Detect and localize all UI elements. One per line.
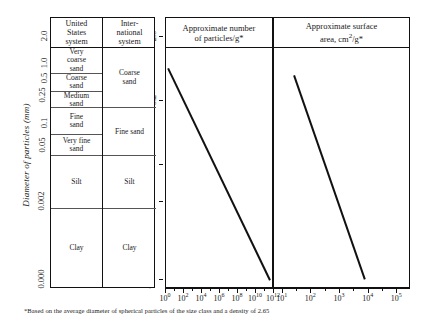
us-class-medium-sand: Mediumsand	[51, 92, 102, 108]
x-tick-minor	[210, 288, 211, 291]
cell-text: Very finesand	[63, 137, 91, 153]
x-tick-label: 100	[160, 292, 171, 303]
cell-text: Finesand	[70, 113, 84, 129]
panel-title-number-of-particles: Approximate numberof particles/g*	[166, 18, 272, 48]
x-tick-minor	[353, 288, 354, 291]
x-tick-label: 106	[214, 292, 225, 303]
us-class-clay: Clay	[51, 209, 102, 287]
intl-class-coarse-sand: Coarsesand	[103, 48, 156, 108]
footnote: *Based on the average diameter of spheri…	[24, 307, 269, 314]
x-tick-minor	[296, 288, 297, 291]
diameter-scale-outer: 2.01.00.50.250.10.050.0020.000	[20, 36, 50, 288]
plot-area-surface-area	[274, 48, 409, 287]
scale-tick-mark	[159, 100, 163, 101]
intl-class-silt: Silt	[103, 156, 156, 209]
scale-tick-text: 0.25	[38, 88, 48, 103]
scale-tick-mark	[159, 36, 163, 37]
cell-text: Inter-nationalsystem	[117, 19, 143, 46]
x-tick-minor	[192, 288, 193, 291]
panel-number-of-particles: Approximate numberof particles/g*	[165, 17, 273, 288]
plot-area-number-of-particles	[166, 48, 272, 287]
us-class-very-coarse-sand: Verycoarsesand	[51, 48, 102, 74]
table-header-row: UnitedStatessystem Inter-nationalsystem	[51, 18, 154, 48]
column-international-classes: CoarsesandFine sandSiltClay	[103, 48, 156, 287]
cell-text: Clay	[69, 244, 83, 252]
cell-text: Fine sand	[115, 128, 144, 136]
cell-text: UnitedStatessystem	[65, 19, 87, 46]
title-text-number-of-particles: Approximate numberof particles/g*	[183, 23, 256, 43]
x-axis-number-of-particles	[165, 288, 273, 289]
scale-tick-mark	[159, 164, 163, 165]
scale-tick-text: 0.05	[38, 137, 48, 152]
column-united-states-classes: VerycoarsesandCoarsesandMediumsandFinesa…	[51, 48, 103, 287]
us-class-fine-sand: Finesand	[51, 108, 102, 134]
scale-tick-text: 1.0	[40, 58, 50, 69]
trend-line-surface-area	[293, 75, 366, 280]
x-tick-label: 104	[362, 292, 373, 303]
cell-text: Verycoarsesand	[67, 48, 86, 73]
x-tick-label: 101	[276, 292, 287, 303]
scale-tick-text: 0.000	[35, 270, 45, 289]
panel-surface-area: Approximate surfacearea, cm2/g*	[273, 17, 410, 288]
trend-line-number-of-particles	[167, 68, 271, 280]
us-class-very-fine-sand: Very finesand	[51, 135, 102, 157]
scale-tick-text: 2.0	[40, 31, 50, 42]
header-international-system: Inter-nationalsystem	[103, 18, 156, 47]
x-tick-minor	[228, 288, 229, 291]
x-tick-label: 104	[196, 292, 207, 303]
soil-classification-table: UnitedStatessystem Inter-nationalsystem …	[50, 17, 155, 288]
scale-tick-text: 0.5	[40, 73, 50, 84]
x-tick-minor	[264, 288, 265, 291]
cell-text: Silt	[71, 178, 81, 186]
intl-class-fine-sand: Fine sand	[103, 108, 156, 156]
x-tick-label: 102	[305, 292, 316, 303]
header-united-states-system: UnitedStatessystem	[51, 18, 103, 47]
x-tick-minor	[174, 288, 175, 291]
x-tick-label: 1010	[248, 292, 262, 303]
scale-tick-mark	[159, 279, 163, 280]
figure-root: Diameter of particles (mm) 2.01.00.50.25…	[0, 0, 422, 324]
cell-text: Silt	[124, 178, 134, 186]
us-class-silt: Silt	[51, 156, 102, 209]
scale-tick-text: 0.1	[40, 118, 50, 129]
intl-class-clay: Clay	[103, 209, 156, 287]
panel-title-surface-area: Approximate surfacearea, cm2/g*	[274, 18, 409, 48]
cell-text: Clay	[122, 244, 136, 252]
cell-text: Mediumsand	[64, 92, 89, 108]
x-tick-minor	[246, 288, 247, 291]
x-tick-minor	[382, 288, 383, 291]
scale-tick-mark	[159, 201, 163, 202]
scale-tick-text: 0.002	[35, 191, 45, 210]
x-tick-label: 105	[391, 292, 402, 303]
x-tick-label: 108	[232, 292, 243, 303]
us-class-coarse-sand: Coarsesand	[51, 74, 102, 92]
cell-text: Coarsesand	[66, 74, 87, 90]
cell-text: Coarsesand	[119, 69, 140, 85]
x-tick-label: 103	[333, 292, 344, 303]
x-tick-minor	[325, 288, 326, 291]
x-tick-label: 102	[178, 292, 189, 303]
title-text-surface-area: Approximate surfacearea, cm2/g*	[306, 21, 378, 44]
x-axis-surface-area	[273, 288, 410, 289]
